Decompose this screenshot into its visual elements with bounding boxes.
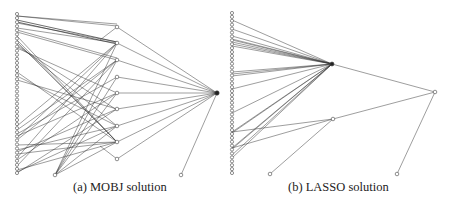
input-node bbox=[230, 97, 233, 100]
input-node bbox=[230, 128, 233, 131]
input-node bbox=[15, 127, 18, 130]
hidden-node bbox=[395, 172, 399, 176]
output-edge bbox=[333, 92, 435, 119]
input-node bbox=[230, 82, 233, 85]
input-node bbox=[15, 41, 18, 44]
input-node bbox=[230, 171, 233, 174]
hidden-edge bbox=[100, 27, 117, 40]
input-node bbox=[230, 70, 233, 73]
input-edge bbox=[232, 20, 332, 64]
input-node bbox=[230, 117, 233, 120]
input-node bbox=[230, 19, 233, 22]
input-edge bbox=[232, 29, 332, 64]
output-edge bbox=[117, 60, 217, 93]
input-edge bbox=[55, 43, 117, 175]
network-diagram-mobj bbox=[0, 0, 226, 206]
input-node bbox=[15, 159, 18, 162]
input-node bbox=[15, 94, 18, 97]
hidden-node bbox=[115, 107, 119, 111]
panel-mobj bbox=[0, 0, 226, 206]
output-edge bbox=[117, 27, 217, 93]
input-node bbox=[230, 23, 233, 26]
input-node bbox=[230, 47, 233, 50]
output-edge bbox=[117, 43, 217, 93]
input-node bbox=[15, 86, 18, 89]
input-node bbox=[15, 118, 18, 121]
input-node bbox=[15, 74, 18, 77]
input-node bbox=[15, 90, 18, 93]
input-node bbox=[15, 171, 18, 174]
output-edge bbox=[181, 93, 217, 175]
output-edge bbox=[117, 93, 217, 109]
output-edge bbox=[117, 77, 217, 93]
input-edge bbox=[232, 46, 332, 64]
hidden-node bbox=[268, 172, 272, 176]
input-node bbox=[15, 139, 18, 142]
output-edge bbox=[117, 93, 217, 159]
input-node bbox=[15, 12, 18, 15]
input-edge bbox=[17, 16, 117, 26]
caption-lasso: (b) LASSO solution bbox=[288, 180, 389, 195]
input-node bbox=[15, 155, 18, 158]
input-edge bbox=[17, 72, 117, 142]
input-edge bbox=[17, 77, 117, 134]
input-node bbox=[15, 98, 18, 101]
input-edge bbox=[17, 109, 117, 152]
input-node bbox=[15, 110, 18, 113]
hidden-node bbox=[53, 173, 57, 177]
hidden-node bbox=[115, 75, 119, 79]
input-node bbox=[230, 39, 233, 42]
input-edge bbox=[232, 119, 333, 148]
input-node bbox=[15, 167, 18, 170]
input-node bbox=[15, 33, 18, 36]
input-node bbox=[15, 102, 18, 105]
input-node bbox=[230, 164, 233, 167]
output-edge bbox=[397, 92, 435, 174]
input-node bbox=[15, 16, 18, 19]
input-node bbox=[15, 82, 18, 85]
input-node bbox=[230, 148, 233, 151]
input-node bbox=[15, 29, 18, 32]
input-node bbox=[15, 122, 18, 125]
input-node bbox=[230, 167, 233, 170]
input-node bbox=[230, 58, 233, 61]
input-node bbox=[230, 78, 233, 81]
input-node bbox=[230, 62, 233, 65]
hidden-node bbox=[115, 140, 119, 144]
hidden-node bbox=[115, 58, 119, 62]
hidden-node bbox=[115, 157, 119, 161]
input-node bbox=[230, 109, 233, 112]
input-node bbox=[230, 74, 233, 77]
input-edge bbox=[55, 142, 117, 175]
input-node bbox=[15, 151, 18, 154]
input-node bbox=[15, 21, 18, 24]
input-node bbox=[230, 66, 233, 69]
hidden-edge bbox=[270, 119, 333, 174]
input-node bbox=[230, 152, 233, 155]
input-node bbox=[230, 35, 233, 38]
input-node bbox=[15, 45, 18, 48]
input-node bbox=[15, 131, 18, 134]
input-node bbox=[230, 101, 233, 104]
input-node bbox=[15, 78, 18, 81]
input-node bbox=[230, 136, 233, 139]
input-node bbox=[230, 93, 233, 96]
panel-lasso bbox=[226, 0, 452, 206]
input-node bbox=[230, 121, 233, 124]
input-edge bbox=[55, 60, 117, 175]
input-edge bbox=[232, 119, 333, 132]
input-edge bbox=[55, 77, 117, 175]
input-node bbox=[230, 54, 233, 57]
output-edge bbox=[117, 93, 217, 142]
input-node bbox=[230, 50, 233, 53]
input-node bbox=[230, 31, 233, 34]
input-node bbox=[15, 49, 18, 52]
input-node bbox=[230, 11, 233, 14]
network-diagram-lasso bbox=[226, 0, 452, 206]
hidden-node bbox=[331, 117, 335, 121]
input-node bbox=[230, 15, 233, 18]
hidden-node bbox=[115, 91, 119, 95]
input-node bbox=[15, 114, 18, 117]
input-node bbox=[15, 143, 18, 146]
input-node bbox=[230, 132, 233, 135]
